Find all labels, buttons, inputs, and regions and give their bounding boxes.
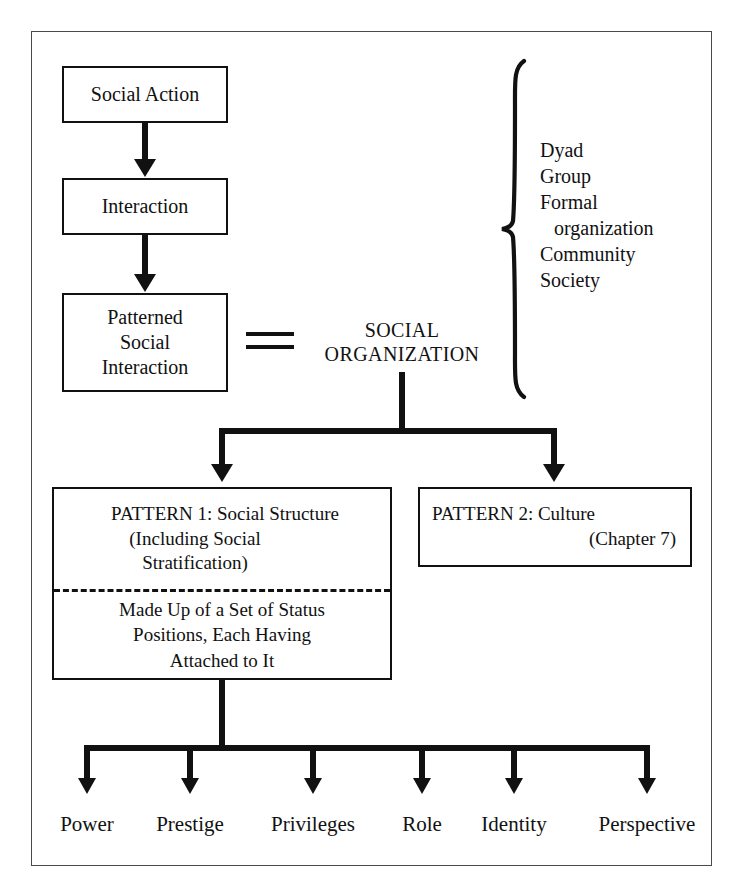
box-patterned-label-line2: Social bbox=[120, 330, 170, 355]
arrowhead-to-pattern2 bbox=[543, 464, 565, 482]
connector-pattern1-stem bbox=[219, 680, 225, 750]
term-power: Power bbox=[60, 812, 114, 837]
connector-to-pattern2 bbox=[551, 428, 557, 468]
term-perspective: Perspective bbox=[599, 812, 696, 837]
arrowhead-to-patterned bbox=[134, 274, 156, 292]
arrowhead-to-term-role bbox=[413, 778, 431, 794]
brace-list-item: Society bbox=[540, 267, 654, 293]
pattern-1-sub-line1: Made Up of a Set of Status bbox=[119, 597, 325, 623]
pattern-1-line2: (Including Social bbox=[129, 527, 314, 552]
arrowhead-to-term-prestige bbox=[181, 778, 199, 794]
connector-to-term-role bbox=[419, 745, 425, 781]
equals-sign bbox=[246, 332, 294, 352]
connector-terms-bar bbox=[84, 745, 650, 751]
pattern-1-title-block: PATTERN 1: Social Structure (Including S… bbox=[54, 489, 390, 589]
brace-list-item: Group bbox=[540, 163, 654, 189]
brace-list-item: Formal bbox=[540, 189, 654, 215]
connector-to-term-power bbox=[84, 745, 90, 781]
term-identity: Identity bbox=[481, 812, 546, 837]
pattern-2-line2: (Chapter 7) bbox=[432, 527, 676, 552]
box-social-action: Social Action bbox=[62, 66, 228, 123]
arrowhead-to-interaction bbox=[134, 159, 156, 177]
connector-social-action-to-interaction bbox=[142, 123, 148, 163]
connector-social-org-stem bbox=[399, 372, 405, 433]
arrowhead-to-term-privileges bbox=[304, 778, 322, 794]
connector-to-term-prestige bbox=[187, 745, 193, 781]
brace-icon bbox=[490, 58, 536, 400]
connector-to-term-privileges bbox=[310, 745, 316, 781]
box-pattern-2: PATTERN 2: Culture (Chapter 7) bbox=[418, 487, 692, 567]
social-organization-line2: ORGANIZATION bbox=[312, 342, 492, 366]
brace-list: Dyad Group Formal organization Community… bbox=[540, 137, 654, 293]
term-role: Role bbox=[402, 812, 442, 837]
pattern-2-title-block: PATTERN 2: Culture (Chapter 7) bbox=[420, 489, 690, 565]
social-organization-label: SOCIAL ORGANIZATION bbox=[312, 318, 492, 367]
connector-interaction-to-patterned bbox=[142, 235, 148, 277]
connector-to-term-perspective bbox=[644, 745, 650, 781]
box-interaction-label: Interaction bbox=[102, 195, 189, 218]
pattern-1-sub-line3: Attached to It bbox=[170, 648, 274, 674]
arrowhead-to-term-identity bbox=[505, 778, 523, 794]
arrowhead-to-term-perspective bbox=[638, 778, 656, 794]
connector-to-term-identity bbox=[511, 745, 517, 781]
brace-list-item: Dyad bbox=[540, 137, 654, 163]
term-privileges: Privileges bbox=[271, 812, 355, 837]
social-organization-line1: SOCIAL bbox=[312, 318, 492, 342]
pattern-1-line1: PATTERN 1: Social Structure bbox=[105, 502, 339, 527]
brace-list-item: Community bbox=[540, 241, 654, 267]
pattern-2-line1: PATTERN 2: Culture bbox=[432, 502, 676, 527]
box-patterned-social-interaction: Patterned Social Interaction bbox=[62, 293, 228, 392]
box-social-action-label: Social Action bbox=[91, 83, 199, 106]
arrowhead-to-term-power bbox=[78, 778, 96, 794]
brace-list-item: organization bbox=[540, 215, 654, 241]
box-patterned-label-line3: Interaction bbox=[102, 355, 189, 380]
diagram-canvas: Social Action Interaction Patterned Soci… bbox=[0, 0, 741, 896]
box-patterned-label-line1: Patterned bbox=[107, 305, 183, 330]
connector-to-pattern1 bbox=[219, 428, 225, 468]
pattern-1-line3: Stratification) bbox=[142, 551, 302, 576]
box-pattern-1: PATTERN 1: Social Structure (Including S… bbox=[52, 487, 392, 680]
pattern-1-sub-line2: Positions, Each Having bbox=[133, 622, 311, 648]
pattern-1-detail-block: Made Up of a Set of Status Positions, Ea… bbox=[54, 592, 390, 678]
connector-pattern-split-bar bbox=[219, 428, 557, 434]
term-prestige: Prestige bbox=[156, 812, 224, 837]
box-interaction: Interaction bbox=[62, 178, 228, 235]
arrowhead-to-pattern1 bbox=[211, 464, 233, 482]
